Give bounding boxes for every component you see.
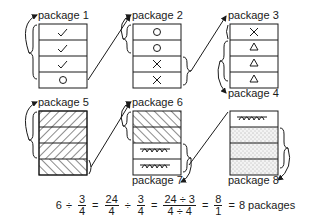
loops-icon [237,117,267,120]
box-5 [39,111,87,175]
box-6 [133,111,181,175]
eq-equals-op: = [151,199,157,211]
circle-icon [154,45,161,52]
package-7-label: package 7 [132,174,183,186]
triangle-icon [250,43,258,50]
eq-result: 8 packages [239,199,295,211]
triangle-icon [250,59,258,66]
eq-equals-op: = [202,199,208,211]
package-5-label: package 5 [38,96,89,108]
box-8 [230,111,278,175]
fraction-division-diagram: package 1 package 2 package 3 package 4 … [0,0,311,190]
eq-fraction-3: 3 4 [137,194,145,217]
package-6-label: package 6 [132,96,183,108]
eq-div-op: ÷ [66,199,72,211]
circle-icon [60,77,67,84]
eq-fraction-1: 3 4 [78,194,86,217]
check-icon [58,61,67,68]
package-1-label: package 1 [38,9,89,21]
eq-fraction-4: 24 ÷ 3 4 ÷ 4 [163,194,196,217]
loops-icon [140,165,170,168]
eq-fraction-5: 8 1 [214,194,222,217]
circle-icon [154,29,161,36]
cross-icon [153,60,161,68]
package-3-label: package 3 [228,9,279,21]
cross-icon [153,76,161,84]
eq-equals-op: = [92,199,98,211]
loops-icon [140,149,170,152]
eq-div-op: ÷ [125,199,131,211]
package-4-label: package 4 [228,87,279,99]
eq-equals-op: = [228,199,234,211]
triangle-icon [250,75,258,82]
box-2 [133,24,181,88]
box-1 [39,24,87,88]
equation: 6 ÷ 3 4 = 24 4 ÷ 3 4 = 24 ÷ 3 4 ÷ 4 = 8 … [0,189,311,221]
package-8-label: package 8 [228,174,279,186]
check-icon [58,45,67,52]
check-icon [58,29,67,36]
box-3 [230,24,278,88]
package-2-label: package 2 [132,9,183,21]
cross-icon [250,28,258,36]
eq-fraction-2: 24 4 [105,194,119,217]
eq-whole: 6 [56,199,62,211]
